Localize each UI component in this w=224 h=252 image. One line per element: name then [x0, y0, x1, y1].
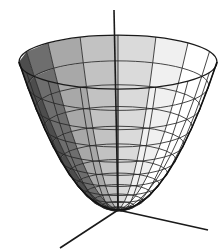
- surface-patch: [118, 61, 153, 87]
- surface-patch: [83, 61, 118, 87]
- plot-canvas: [0, 0, 224, 252]
- paraboloid-figure: [0, 0, 224, 252]
- surface-patch: [80, 35, 118, 63]
- surface-patch: [118, 35, 156, 63]
